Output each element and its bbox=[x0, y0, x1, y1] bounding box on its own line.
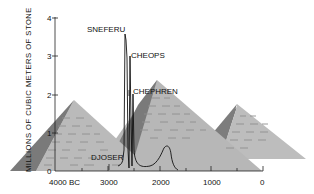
y-tick-3: 3 bbox=[47, 52, 52, 61]
y-tick-4: 4 bbox=[47, 14, 52, 23]
label-djoser: DJOSER bbox=[91, 153, 124, 162]
label-chephren: CHEPHREN bbox=[133, 87, 178, 96]
x-tick-2000: 2000 bbox=[152, 178, 170, 187]
y-axis-label: MILLIONS OF CUBIC METERS OF STONE bbox=[24, 7, 33, 172]
label-cheops: CHEOPS bbox=[131, 51, 165, 60]
y-tick-1: 1 bbox=[47, 129, 52, 138]
y-tick-2: 2 bbox=[47, 91, 52, 100]
x-tick-0: 0 bbox=[260, 178, 265, 187]
x-tick-1000: 1000 bbox=[203, 178, 221, 187]
x-tick-4000bc: 4000 BC bbox=[49, 178, 80, 187]
chart: 4 3 2 1 0 4000 BC 3000 2000 1000 0 MILLI… bbox=[0, 0, 314, 194]
y-tick-0: 0 bbox=[47, 167, 52, 176]
label-sneferu: SNEFERU bbox=[87, 25, 125, 34]
x-tick-3000: 3000 bbox=[100, 178, 118, 187]
